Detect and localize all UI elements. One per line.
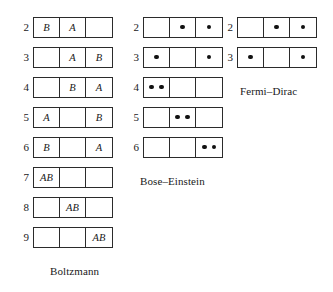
particle-dots [248, 55, 253, 60]
energy-level-boxes: AB [33, 107, 113, 128]
particle-dots [180, 25, 185, 30]
energy-cell [34, 228, 60, 247]
energy-cell [86, 168, 112, 187]
particle-label: B [43, 22, 50, 33]
microstate-number: 2 [122, 16, 143, 38]
particle-dot-icon [185, 115, 190, 120]
particle-label: B [96, 112, 103, 123]
particle-label: B [69, 82, 76, 93]
energy-cell [144, 18, 170, 37]
energy-level-boxes [237, 17, 317, 38]
energy-level-boxes: AB [33, 197, 113, 218]
particle-dots [149, 85, 163, 90]
particle-label: AB [40, 172, 53, 183]
energy-cell: A [86, 138, 112, 157]
energy-cell [264, 48, 290, 67]
energy-level-boxes [143, 77, 223, 98]
energy-cell [290, 48, 316, 67]
microstate-row: 5 [122, 106, 223, 128]
energy-cell: AB [60, 198, 86, 217]
energy-cell [238, 48, 264, 67]
energy-cell [170, 108, 196, 127]
energy-level-boxes: AB [33, 167, 113, 188]
microstate-row: 2BA [12, 16, 113, 38]
microstate-row: 4BA [12, 76, 113, 98]
microstate-number: 7 [12, 166, 33, 188]
microstate-number: 4 [122, 76, 143, 98]
energy-cell: A [86, 78, 112, 97]
microstate-number: 6 [12, 136, 33, 158]
particle-dots [202, 145, 216, 150]
energy-cell [86, 198, 112, 217]
energy-cell [86, 18, 112, 37]
particle-label: A [96, 82, 103, 93]
energy-level-boxes: BA [33, 77, 113, 98]
energy-cell [264, 18, 290, 37]
particle-dots [207, 25, 212, 30]
microstate-row: 7AB [12, 166, 113, 188]
microstate-number: 6 [122, 136, 143, 158]
particle-dots [154, 55, 159, 60]
microstate-number: 8 [12, 196, 33, 218]
microstate-row: 3AB [12, 46, 113, 68]
energy-cell: A [60, 18, 86, 37]
energy-cell [196, 108, 222, 127]
particle-dot-icon [175, 115, 180, 120]
energy-cell: AB [86, 228, 112, 247]
particle-dot-icon [207, 55, 212, 60]
microstate-row: 9AB [12, 226, 113, 248]
particle-label: B [43, 142, 50, 153]
energy-cell [290, 18, 316, 37]
energy-cell [60, 108, 86, 127]
energy-cell [144, 108, 170, 127]
particle-label: AB [66, 202, 79, 213]
microstate-row: 2 [122, 16, 223, 38]
particle-dots [207, 55, 212, 60]
particle-dot-icon [248, 55, 253, 60]
microstate-number: 3 [122, 46, 143, 68]
microstate-row: 3 [216, 46, 317, 68]
energy-level-boxes: AB [33, 227, 113, 248]
microstate-row: 4 [122, 76, 223, 98]
particle-dots [301, 25, 306, 30]
particle-dots [301, 55, 306, 60]
energy-cell [144, 138, 170, 157]
particle-dot-icon [301, 55, 306, 60]
energy-cell: A [60, 48, 86, 67]
distribution-caption-bose: Bose–Einstein [140, 174, 205, 188]
energy-cell [196, 138, 222, 157]
particle-label: A [96, 142, 103, 153]
particle-label: A [69, 52, 76, 63]
energy-level-boxes: BA [33, 137, 113, 158]
energy-level-boxes [237, 47, 317, 68]
energy-cell [238, 18, 264, 37]
particle-dot-icon [180, 25, 185, 30]
particle-dots [175, 115, 189, 120]
particle-label: A [43, 112, 50, 123]
energy-level-boxes: BA [33, 17, 113, 38]
particle-dot-icon [274, 25, 279, 30]
microstate-number: 2 [12, 16, 33, 38]
energy-cell: B [60, 78, 86, 97]
particle-label: AB [92, 232, 105, 243]
microstate-number: 2 [216, 16, 237, 38]
microstate-row: 3 [122, 46, 223, 68]
microstate-number: 5 [12, 106, 33, 128]
particle-label: A [69, 22, 76, 33]
energy-level-boxes [143, 47, 223, 68]
microstate-row: 5AB [12, 106, 113, 128]
microstate-row: 6 [122, 136, 223, 158]
particle-dot-icon [202, 145, 207, 150]
particle-dot-icon [301, 25, 306, 30]
microstate-number: 3 [12, 46, 33, 68]
statistics-distribution-figure: 2BA3AB4BA5AB6BA7AB8AB9ABBoltzmann23456Bo… [0, 0, 333, 292]
energy-cell [60, 138, 86, 157]
energy-cell: B [86, 108, 112, 127]
distribution-caption-boltzmann: Boltzmann [50, 264, 99, 278]
energy-cell [170, 138, 196, 157]
microstate-number: 3 [216, 46, 237, 68]
particle-dot-icon [212, 145, 217, 150]
energy-cell [60, 168, 86, 187]
microstate-number: 4 [12, 76, 33, 98]
distribution-caption-fermi: Fermi–Dirac [240, 84, 297, 98]
